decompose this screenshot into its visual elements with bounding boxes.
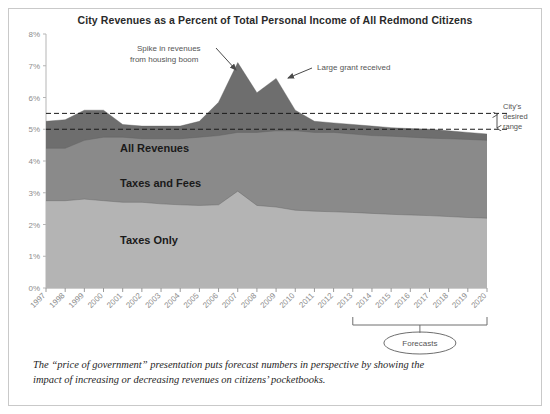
x-tick-label-2011: 2011 xyxy=(297,291,316,310)
x-tick-label-2003: 2003 xyxy=(144,291,163,310)
y-tick-0: 0% xyxy=(28,284,40,293)
series-label-all-revenues: All Revenues xyxy=(120,142,189,154)
y-tick-6: 6% xyxy=(28,94,40,103)
x-tick-label-2010: 2010 xyxy=(278,291,297,310)
desired-range-label-line2: desired xyxy=(503,112,528,121)
x-tick-label-2001: 2001 xyxy=(105,291,124,310)
spike-annotation-line2: from housing boom xyxy=(130,55,199,64)
x-tick-label-1998: 1998 xyxy=(48,291,67,310)
desired-range-label-line3: range xyxy=(503,122,522,131)
caption-line-2: impact of increasing or decreasing reven… xyxy=(33,372,483,387)
x-tick-label-1999: 1999 xyxy=(67,291,86,310)
x-tick-label-2018: 2018 xyxy=(431,291,450,310)
x-tick-label-2006: 2006 xyxy=(201,291,220,310)
caption-line-1: The “price of government” presentation p… xyxy=(33,357,483,372)
y-tick-1: 1% xyxy=(28,252,40,261)
y-tick-8: 8% xyxy=(28,30,40,39)
stacked-areas xyxy=(46,63,487,288)
x-tick-label-2013: 2013 xyxy=(335,291,354,310)
y-tick-4: 4% xyxy=(28,157,40,166)
series-label-taxes-and-fees: Taxes and Fees xyxy=(120,177,201,189)
grant-annotation-arrow xyxy=(288,68,312,78)
spike-annotation-arrow xyxy=(216,48,236,70)
revenue-area-chart: 0% 1% 2% 3% 4% 5% 6% 7% 8% 1997199819992… xyxy=(0,0,550,414)
x-tick-label-2014: 2014 xyxy=(354,291,373,310)
forecasts-label: Forecasts xyxy=(402,339,437,348)
x-tick-label-2009: 2009 xyxy=(259,291,278,310)
y-tick-3: 3% xyxy=(28,189,40,198)
desired-range-label-line1: City’s xyxy=(503,102,521,111)
x-tick-label-2004: 2004 xyxy=(163,291,182,310)
x-tick-label-2015: 2015 xyxy=(374,291,393,310)
screenshot-root: City Revenues as a Percent of Total Pers… xyxy=(0,0,550,414)
x-tick-label-2017: 2017 xyxy=(412,291,431,310)
chart-canvas: 0% 1% 2% 3% 4% 5% 6% 7% 8% 1997199819992… xyxy=(0,0,550,414)
x-tick-label-2002: 2002 xyxy=(124,291,143,310)
forecast-bracket xyxy=(353,317,487,333)
x-tick-label-2016: 2016 xyxy=(393,291,412,310)
y-tick-7: 7% xyxy=(28,62,40,71)
x-tick-label-2008: 2008 xyxy=(239,291,258,310)
series-label-taxes-only: Taxes Only xyxy=(120,234,179,246)
x-tick-label-2000: 2000 xyxy=(86,291,105,310)
x-axis-labels: 1997199819992000200120022003200420052006… xyxy=(28,291,488,310)
x-tick-label-2005: 2005 xyxy=(182,291,201,310)
figure-caption: The “price of government” presentation p… xyxy=(33,357,483,387)
x-tick-label-2019: 2019 xyxy=(450,291,469,310)
spike-annotation-line1: Spike in revenues xyxy=(137,44,201,53)
x-tick-label-1997: 1997 xyxy=(28,291,47,310)
x-tick-label-2012: 2012 xyxy=(316,291,335,310)
x-tick-label-2007: 2007 xyxy=(220,291,239,310)
y-tick-2: 2% xyxy=(28,221,40,230)
grant-annotation: Large grant received xyxy=(317,63,390,72)
y-tick-5: 5% xyxy=(28,125,40,134)
x-tick-label-2020: 2020 xyxy=(469,291,488,310)
